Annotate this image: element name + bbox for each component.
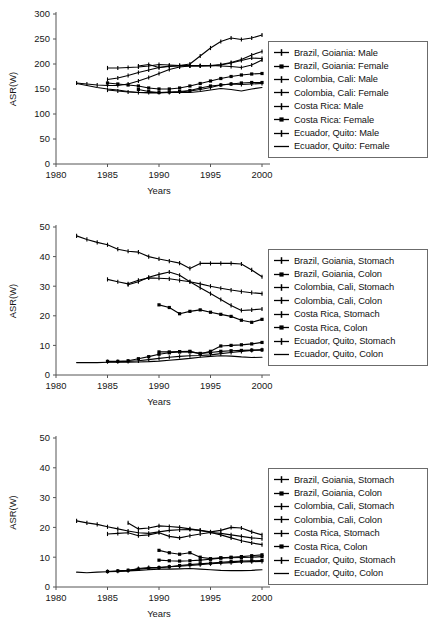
legend-item[interactable]: Ecuador, Quito: Female [273, 140, 422, 153]
data-point-marker [168, 351, 171, 354]
x-tick-label: 1995 [200, 380, 221, 391]
x-axis-title: Years [147, 396, 171, 407]
data-point-marker [168, 551, 171, 554]
legend-item[interactable]: Brazil, Goiania: Male [273, 46, 422, 59]
data-point-marker [199, 556, 202, 559]
legend-item[interactable]: Ecuador, Quito, Colon [273, 348, 422, 361]
data-point-marker [209, 79, 212, 82]
y-tick-label: 40 [40, 251, 50, 262]
x-tick-label: 1985 [97, 380, 118, 391]
data-point-marker [178, 312, 181, 315]
legend-marker-icon [273, 487, 290, 500]
chart-panel-3: 0102030405019801985199019952000YearsASR(… [0, 422, 432, 633]
legend-item[interactable]: Brazil, Goiania, Colon [273, 486, 422, 499]
x-tick-label: 1985 [97, 169, 118, 180]
legend-item[interactable]: Colombia, Cali: Male [273, 73, 422, 86]
data-point-marker [230, 315, 233, 318]
legend-label: Ecuador, Quito, Colon [294, 349, 383, 359]
data-point-marker [250, 342, 253, 345]
legend-label: Costa Rica, Stomach [294, 309, 380, 319]
data-point-marker [188, 350, 191, 353]
legend-item[interactable]: Brazil, Goiania: Female [273, 59, 422, 72]
legend-item[interactable]: Costa Rica: Female [273, 113, 422, 126]
series-group [77, 234, 264, 364]
data-point-marker [219, 313, 222, 316]
x-tick-label: 1995 [200, 592, 221, 603]
legend-item[interactable]: Ecuador, Quito, Stomach [273, 334, 422, 347]
y-tick-label: 0 [45, 158, 50, 169]
data-point-marker [219, 556, 222, 559]
legend-item[interactable]: Colombia, Cali, Stomach [273, 500, 422, 513]
legend-marker-icon [273, 113, 290, 126]
legend-label: Brazil, Goiania: Male [294, 48, 378, 58]
legend-label: Brazil, Goiania, Stomach [294, 475, 394, 485]
data-point-marker [250, 556, 253, 559]
series-group [77, 33, 264, 95]
legend-marker-icon [273, 46, 290, 59]
legend-item[interactable]: Colombia, Cali, Colon [273, 513, 422, 526]
x-axis-title: Years [147, 608, 171, 619]
x-tick-label: 1990 [149, 592, 170, 603]
legend-label: Costa Rica, Colon [294, 323, 367, 333]
legend-marker-icon [273, 73, 290, 86]
legend-marker-icon [273, 321, 290, 334]
series-path [138, 35, 262, 68]
line-chart-3: 0102030405019801985199019952000YearsASR(… [0, 422, 275, 634]
legend-marker-icon [273, 527, 290, 540]
legend-item[interactable]: Costa Rica, Stomach [273, 527, 422, 540]
legend-label: Ecuador, Quito: Female [294, 141, 390, 151]
legend-marker-icon [273, 513, 290, 526]
series-group [77, 519, 264, 574]
series-path [108, 532, 263, 538]
legend-item[interactable]: Ecuador, Quito, Stomach [273, 553, 422, 566]
data-point-marker [250, 321, 253, 324]
legend-marker-icon [273, 500, 290, 513]
data-point-marker [178, 86, 181, 89]
data-series [157, 303, 263, 324]
legend-label: Colombia, Cali: Female [294, 88, 389, 98]
legend-marker-icon [273, 567, 290, 580]
x-tick-label: 1985 [97, 592, 118, 603]
legend-label: Costa Rica: Male [294, 101, 363, 111]
legend-item[interactable]: Costa Rica, Colon [273, 540, 422, 553]
series-path [108, 74, 263, 90]
data-point-marker [188, 559, 191, 562]
data-point-marker [209, 558, 212, 561]
x-tick-label: 2000 [252, 380, 273, 391]
legend-item[interactable]: Costa Rica, Colon [273, 321, 422, 334]
chart-panel-2: 0102030405019801985199019952000YearsASR(… [0, 211, 432, 422]
series-path [108, 278, 263, 294]
legend-item[interactable]: Ecuador, Quito, Colon [273, 567, 422, 580]
data-point-marker [260, 341, 263, 344]
legend-item[interactable]: Brazil, Goiania, Colon [273, 267, 422, 280]
legend-marker-icon [273, 281, 290, 294]
y-tick-label: 50 [40, 432, 50, 443]
legend-item[interactable]: Brazil, Goiania, Stomach [273, 473, 422, 486]
legend-marker-icon [273, 86, 290, 99]
legend-marker-icon [273, 60, 290, 73]
legend-marker-icon [273, 140, 290, 153]
series-path [77, 58, 262, 86]
legend-box-3: Brazil, Goiania, StomachBrazil, Goiania,… [268, 468, 428, 585]
legend-item[interactable]: Brazil, Goiania, Stomach [273, 254, 422, 267]
series-path [77, 569, 262, 573]
legend-item[interactable]: Costa Rica: Male [273, 100, 422, 113]
data-series [77, 569, 262, 573]
legend-item[interactable]: Colombia, Cali, Colon [273, 294, 422, 307]
y-axis-title: ASR(W) [7, 495, 18, 529]
y-tick-label: 100 [34, 108, 50, 119]
legend-item[interactable]: Ecuador, Quito: Male [273, 126, 422, 139]
x-tick-label: 1980 [46, 592, 67, 603]
data-point-marker [147, 86, 150, 89]
legend-label: Ecuador, Quito, Stomach [294, 555, 395, 565]
legend-label: Colombia, Cali, Colon [294, 515, 382, 525]
legend-marker-icon [273, 127, 290, 140]
data-point-marker [260, 555, 263, 558]
legend-item[interactable]: Colombia, Cali: Female [273, 86, 422, 99]
legend-item[interactable]: Colombia, Cali, Stomach [273, 281, 422, 294]
chart-panel-1: 05010015020025030019801985199019952000Ye… [0, 0, 432, 211]
data-point-marker [199, 82, 202, 85]
data-point-marker [157, 353, 160, 356]
legend-item[interactable]: Costa Rica, Stomach [273, 308, 422, 321]
y-tick-label: 200 [34, 58, 50, 69]
